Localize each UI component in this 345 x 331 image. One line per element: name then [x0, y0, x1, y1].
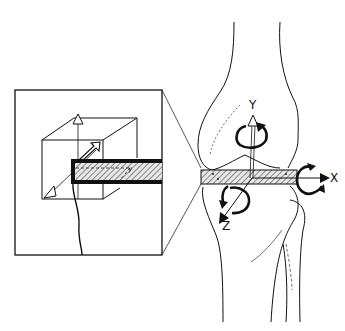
y-axis: [237, 115, 267, 178]
y-axis-label: Y: [249, 99, 256, 111]
diagram: y: [0, 0, 345, 331]
z-axis-label: Z: [222, 220, 230, 232]
projection-line-bottom: [162, 184, 201, 255]
svg-text:y: y: [128, 165, 132, 173]
x-axis-label: X: [330, 172, 338, 184]
inset-sensor-strip: y: [71, 159, 162, 184]
x-axis: [252, 163, 330, 194]
z-axis: [219, 178, 252, 224]
projection-line-top: [162, 90, 201, 168]
